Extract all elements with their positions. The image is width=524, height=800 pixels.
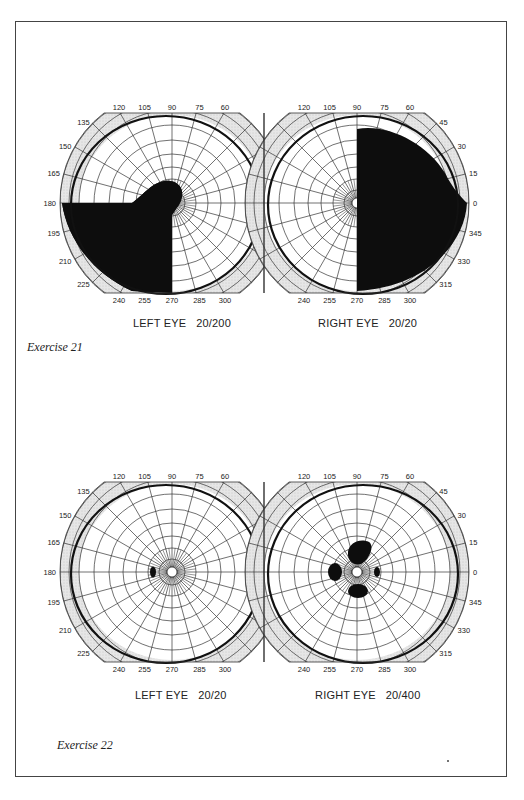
meridian-label: 120 (113, 472, 126, 481)
visual-field-charts: 1201059075602402552702853001351501651801… (0, 0, 524, 800)
meridian-label: 75 (195, 103, 203, 112)
meridian-label: 300 (219, 296, 232, 305)
meridian-label: 105 (138, 472, 151, 481)
meridian-label: 105 (138, 103, 151, 112)
meridian-label: 285 (378, 665, 391, 674)
meridian-label: 60 (406, 472, 414, 481)
meridian-label: 270 (166, 665, 179, 674)
meridian-label: 45 (439, 487, 447, 496)
scotoma-blind-spot (150, 567, 156, 578)
meridian-label: 255 (323, 665, 336, 674)
meridian-label: 15 (469, 538, 477, 547)
meridian-label: 120 (113, 103, 126, 112)
meridian-label: 60 (406, 103, 414, 112)
meridian-label: 75 (195, 472, 203, 481)
meridian-label: 300 (404, 296, 417, 305)
meridian-label: 195 (47, 598, 60, 607)
meridian-label: 315 (439, 280, 452, 289)
meridian-label: 0 (473, 199, 477, 208)
meridian-label: 120 (298, 472, 311, 481)
meridian-label: 270 (351, 665, 364, 674)
meridian-label: 150 (59, 142, 72, 151)
exercise22-left-eye-label: LEFT EYE 20/20 (135, 689, 227, 701)
meridian-label: 60 (221, 472, 229, 481)
meridian-label: 150 (59, 511, 72, 520)
meridian-label: 300 (219, 665, 232, 674)
meridian-label: 210 (59, 626, 72, 635)
meridian-label: 270 (166, 296, 179, 305)
meridian-label: 165 (47, 169, 60, 178)
meridian-label: 240 (113, 665, 126, 674)
meridian-label: 105 (323, 472, 336, 481)
meridian-label: 135 (77, 118, 90, 127)
scotoma-temporal (374, 567, 380, 577)
meridian-label: 330 (458, 626, 471, 635)
exercise21-caption: Exercise 21 (27, 340, 83, 355)
meridian-label: 180 (43, 568, 56, 577)
meridian-label: 255 (138, 296, 151, 305)
stray-dot (447, 760, 449, 762)
meridian-label: 345 (469, 229, 482, 238)
meridian-label: 285 (378, 296, 391, 305)
meridian-label: 105 (323, 103, 336, 112)
meridian-label: 75 (380, 472, 388, 481)
meridian-label: 90 (168, 472, 176, 481)
meridian-label: 345 (469, 598, 482, 607)
meridian-label: 330 (458, 257, 471, 266)
meridian-label: 255 (138, 665, 151, 674)
meridian-label: 75 (380, 103, 388, 112)
meridian-label: 90 (353, 103, 361, 112)
meridian-label: 240 (113, 296, 126, 305)
meridian-label: 240 (298, 665, 311, 674)
meridian-label: 240 (298, 296, 311, 305)
scotoma-nasal (328, 563, 342, 581)
meridian-label: 30 (458, 142, 466, 151)
meridian-label: 0 (473, 568, 477, 577)
exercise22-right-eye-label: RIGHT EYE 20/400 (315, 689, 421, 701)
ex22-right-chart: 1201059075602402552702853004530150345330… (240, 455, 482, 689)
meridian-label: 315 (439, 649, 452, 658)
meridian-label: 270 (351, 296, 364, 305)
meridian-label: 60 (221, 103, 229, 112)
meridian-label: 300 (404, 665, 417, 674)
meridian-label: 90 (168, 103, 176, 112)
exercise22-caption: Exercise 22 (57, 738, 113, 753)
meridian-label: 135 (77, 487, 90, 496)
ex21-right-chart: 1201059075602402552702853004530150345330… (240, 86, 482, 320)
meridian-label: 90 (353, 472, 361, 481)
meridian-label: 285 (193, 665, 206, 674)
exercise21-left-eye-label: LEFT EYE 20/200 (133, 317, 231, 329)
meridian-label: 120 (298, 103, 311, 112)
meridian-label: 195 (47, 229, 60, 238)
meridian-label: 255 (323, 296, 336, 305)
meridian-label: 225 (77, 649, 90, 658)
meridian-label: 30 (458, 511, 466, 520)
meridian-label: 225 (77, 280, 90, 289)
scotoma-inferior (348, 584, 368, 598)
meridian-label: 285 (193, 296, 206, 305)
meridian-label: 15 (469, 169, 477, 178)
meridian-label: 180 (43, 199, 56, 208)
meridian-label: 165 (47, 538, 60, 547)
meridian-label: 45 (439, 118, 447, 127)
meridian-label: 210 (59, 257, 72, 266)
exercise21-right-eye-label: RIGHT EYE 20/20 (318, 317, 417, 329)
